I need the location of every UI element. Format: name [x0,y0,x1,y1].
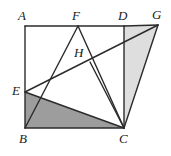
geometry-figure: A F D G H E B C [0,0,171,156]
vertex-label-e: E [12,84,20,97]
vertex-label-c: C [119,132,128,145]
segment-dg [124,25,158,26]
vertex-label-a: A [18,9,26,22]
segment-fc [78,26,124,128]
vertex-label-d: D [118,9,127,22]
vertex-label-h: H [74,46,83,59]
vertex-label-f: F [72,9,80,22]
vertex-label-b: B [19,132,27,145]
shaded-regions [25,25,158,128]
vertex-label-g: G [152,8,161,21]
